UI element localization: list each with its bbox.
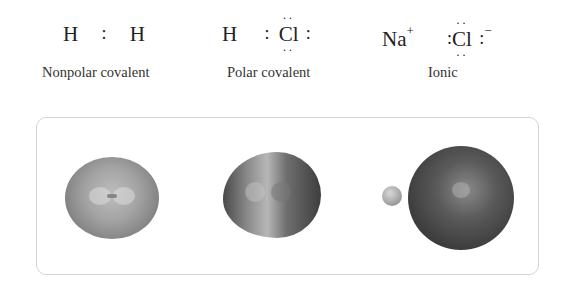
lone-pair-bottom: ·· (283, 46, 295, 54)
atom-cl: ·· Cl ·· (279, 22, 299, 46)
atom-h: H (222, 22, 237, 46)
label-nonpolar-covalent: Nonpolar covalent (42, 64, 150, 81)
shared-electron-pair: : (101, 21, 106, 45)
shared-electron-pair: : (264, 21, 269, 45)
cl-nucleus (452, 182, 470, 198)
bond-line (107, 194, 117, 198)
formula-hcl: H : ·· Cl ·· : (222, 22, 311, 47)
lone-pair-top: ·· (456, 19, 468, 27)
lone-pair-bottom: ·· (456, 51, 468, 59)
na-ion (382, 186, 402, 206)
cl-nucleus (271, 182, 291, 202)
label-polar-covalent: Polar covalent (227, 64, 310, 81)
atom-h-right: H (130, 22, 145, 46)
anion-cl: ·· Cl ·· (452, 27, 472, 51)
formula-h2: H : H (63, 22, 145, 47)
label-ionic: Ionic (428, 64, 458, 81)
lone-pair-top: ·· (283, 14, 295, 22)
atom-h-left: H (63, 22, 78, 46)
cation-na: Na (382, 27, 407, 51)
formula-nacl: Na+ : ·· Cl ·· :− (382, 22, 492, 52)
cl-ion-electron-cloud (408, 146, 514, 250)
h2-electron-cloud (65, 157, 159, 239)
lone-pair-right: : (306, 21, 311, 45)
h-nucleus (245, 182, 265, 202)
cation-charge: + (407, 23, 414, 38)
anion-charge: − (484, 23, 491, 38)
